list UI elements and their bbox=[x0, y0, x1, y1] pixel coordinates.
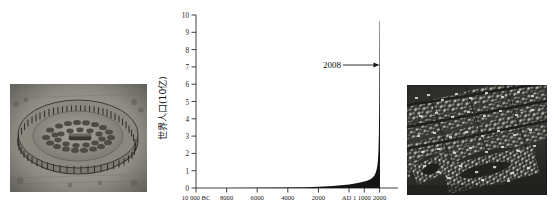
ancient-settlement-photo bbox=[10, 84, 147, 192]
suburb-aerial-illustration bbox=[407, 85, 547, 195]
y-tick-label: 3 bbox=[185, 133, 189, 141]
x-tick-label: 4000 bbox=[281, 194, 295, 201]
x-tick-label: 2000 bbox=[373, 194, 387, 201]
y-tick-label: 6 bbox=[185, 81, 189, 89]
y-axis-tick-labels: 10 9 8 7 6 5 4 3 2 1 0 bbox=[182, 12, 190, 193]
population-figure: 10 9 8 7 6 5 4 3 2 1 0 世界人口(10亿) bbox=[0, 0, 556, 209]
y-tick-label: 7 bbox=[185, 64, 189, 72]
y-tick-label: 2 bbox=[185, 150, 189, 158]
x-tick-label: 6000 bbox=[251, 194, 265, 201]
chart-svg: 10 9 8 7 6 5 4 3 2 1 0 世界人口(10亿) bbox=[155, 0, 405, 209]
y-tick-label: 0 bbox=[185, 185, 189, 193]
ancient-settlement-illustration bbox=[10, 84, 147, 192]
y-tick-label: 1 bbox=[185, 168, 189, 176]
x-tick-label: AD 1 bbox=[342, 194, 356, 201]
x-tick-label: 2000 bbox=[312, 194, 326, 201]
y-axis-ticks bbox=[192, 15, 197, 188]
x-axis-tick-labels: 10 000 BC 8000 6000 4000 2000 AD 1 1000 … bbox=[182, 194, 387, 201]
x-axis-ticks bbox=[196, 188, 380, 193]
modern-suburb-aerial-photo bbox=[407, 85, 547, 195]
y-tick-label: 9 bbox=[185, 29, 189, 37]
x-tick-label: 10 000 BC bbox=[182, 194, 211, 201]
annotation-2008-label: 2008 bbox=[323, 60, 342, 70]
y-tick-label: 8 bbox=[185, 47, 189, 55]
y-axis-title: 世界人口(10亿) bbox=[157, 76, 168, 140]
y-tick-label: 10 bbox=[182, 12, 190, 20]
y-tick-label: 4 bbox=[185, 116, 189, 124]
world-population-chart: 10 9 8 7 6 5 4 3 2 1 0 世界人口(10亿) bbox=[155, 0, 405, 209]
population-area-curve bbox=[196, 21, 380, 188]
x-tick-label: 1000 bbox=[358, 194, 372, 201]
y-tick-label: 5 bbox=[185, 99, 189, 107]
x-tick-label: 8000 bbox=[220, 194, 234, 201]
annotation-2008-arrowhead bbox=[374, 62, 380, 67]
